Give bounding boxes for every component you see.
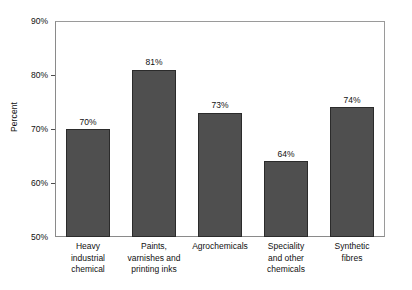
bar-value-label: 81%	[118, 58, 190, 67]
x-axis-category-label-line: chemicals	[253, 264, 319, 276]
x-axis-category-label-line: industrial	[55, 253, 121, 265]
bar-value-label: 70%	[52, 118, 124, 127]
y-axis-title: Percent	[9, 87, 19, 147]
x-axis-category-label: Heavyindustrialchemical	[55, 241, 121, 276]
bar-chart: Percent 90%80%70%60%50% 70%81%73%64%74% …	[0, 0, 412, 290]
x-axis-category-labels: HeavyindustrialchemicalPaints,varnishes …	[55, 241, 385, 289]
bar[interactable]	[330, 107, 374, 237]
bar-group[interactable]: 70%	[66, 21, 110, 237]
y-axis-tick-label: 90%	[14, 17, 48, 26]
y-axis-tick-label: 80%	[14, 71, 48, 80]
bar-value-label: 64%	[250, 150, 322, 159]
bar-group[interactable]: 64%	[264, 21, 308, 237]
bar-group[interactable]: 81%	[132, 21, 176, 237]
x-axis-category-label-line: Heavy	[55, 241, 121, 253]
x-axis-category-label: Specialityand otherchemicals	[253, 241, 319, 276]
x-axis-category-label-line: Agrochemicals	[187, 241, 253, 253]
bar-value-label: 74%	[316, 96, 388, 105]
bar[interactable]	[132, 70, 176, 237]
x-axis-category-label-line: Paints,	[121, 241, 187, 253]
bar-group[interactable]: 74%	[330, 21, 374, 237]
bar[interactable]	[198, 113, 242, 237]
y-axis-tick-label: 70%	[14, 125, 48, 134]
bar[interactable]	[264, 161, 308, 237]
x-axis-category-label-line: Speciality	[253, 241, 319, 253]
bar-value-label: 73%	[184, 101, 256, 110]
x-axis-category-label-line: printing inks	[121, 264, 187, 276]
x-axis-category-label: Agrochemicals	[187, 241, 253, 253]
bars-layer: 70%81%73%64%74%	[55, 21, 385, 237]
bar[interactable]	[66, 129, 110, 237]
y-axis-tick-label: 60%	[14, 179, 48, 188]
x-axis-category-label: Paints,varnishes andprinting inks	[121, 241, 187, 276]
x-axis-category-label-line: fibres	[319, 253, 385, 265]
x-axis-category-label-line: varnishes and	[121, 253, 187, 265]
x-axis-category-label-line: Synthetic	[319, 241, 385, 253]
bar-group[interactable]: 73%	[198, 21, 242, 237]
y-axis-tick-label: 50%	[14, 233, 48, 242]
x-axis-category-label: Syntheticfibres	[319, 241, 385, 264]
x-axis-category-label-line: chemical	[55, 264, 121, 276]
x-axis-category-label-line: and other	[253, 253, 319, 265]
